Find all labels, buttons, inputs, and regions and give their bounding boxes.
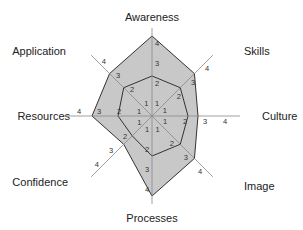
- tick-label: 3: [97, 107, 101, 116]
- tick-label: 1: [137, 118, 141, 127]
- axis-label-confidence: Confidence: [12, 176, 68, 188]
- tick-label: 2: [145, 145, 149, 154]
- tick-label: 3: [116, 71, 120, 80]
- tick-label: 4: [145, 185, 149, 194]
- tick-label: 4: [102, 57, 106, 66]
- tick-label: 4: [95, 160, 99, 169]
- tick-label: 1: [144, 99, 148, 108]
- tick-label: 4: [198, 167, 202, 176]
- chart-axes: [64, 28, 240, 204]
- axis-label-skills: Skills: [244, 45, 270, 57]
- tick-label: 2: [183, 117, 187, 126]
- tick-label: 4: [77, 107, 81, 116]
- tick-label: 1: [163, 106, 167, 115]
- tick-label: 1: [145, 125, 149, 134]
- tick-label: 2: [177, 92, 181, 101]
- tick-label: 1: [163, 117, 167, 126]
- tick-label: 2: [155, 79, 159, 88]
- tick-label: 3: [191, 78, 195, 87]
- tick-label: 3: [203, 117, 207, 126]
- tick-label: 1: [155, 99, 159, 108]
- tick-label: 2: [117, 107, 121, 116]
- tick-label: 2: [130, 85, 134, 94]
- tick-label: 4: [155, 39, 159, 48]
- axis-label-application: Application: [12, 45, 66, 57]
- tick-label: 2: [170, 139, 174, 148]
- tick-label: 2: [123, 132, 127, 141]
- tick-label: 3: [145, 165, 149, 174]
- axis-label-processes: Processes: [126, 212, 178, 224]
- tick-label: 3: [109, 146, 113, 155]
- radar-chart: AwarenessSkillsCultureImageProcessesConf…: [0, 0, 303, 230]
- tick-label: 1: [156, 125, 160, 134]
- tick-label: 4: [223, 117, 227, 126]
- axis-label-awareness: Awareness: [125, 11, 180, 23]
- tick-label: 3: [184, 153, 188, 162]
- axis-label-image: Image: [244, 180, 275, 192]
- axis-label-resources: Resources: [17, 110, 70, 122]
- tick-label: 1: [137, 107, 141, 116]
- tick-label: 3: [155, 59, 159, 68]
- axis-label-culture: Culture: [262, 110, 297, 122]
- tick-label: 4: [205, 64, 209, 73]
